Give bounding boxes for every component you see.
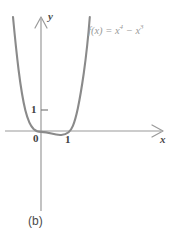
function-label-exponent-2: 3	[140, 23, 144, 31]
function-label-operator: − x	[123, 25, 140, 36]
function-label-base: f(x) = x	[88, 25, 120, 36]
axis-label-x: x	[160, 134, 166, 145]
panel-caption: (b)	[28, 215, 43, 227]
function-curve	[13, 17, 90, 135]
figure-panel-b: y x 0 1 1 f(x) = x4 − x3 (b)	[0, 0, 175, 242]
axis-label-y: y	[48, 11, 53, 22]
tick-label-y-1: 1	[31, 104, 37, 115]
tick-label-x-1: 1	[65, 134, 71, 145]
tick-label-origin: 0	[33, 133, 39, 144]
plot-area	[0, 0, 175, 242]
function-equation-label: f(x) = x4 − x3	[88, 24, 144, 36]
